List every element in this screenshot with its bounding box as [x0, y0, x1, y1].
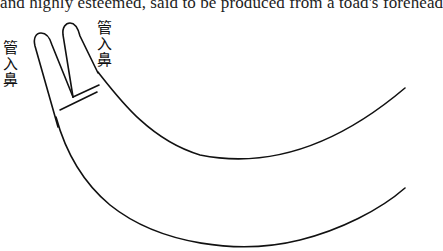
char: 管: [96, 20, 112, 36]
char: 鼻: [2, 72, 18, 88]
char: 入: [2, 56, 18, 72]
char: 管: [2, 40, 18, 56]
char: 鼻: [96, 52, 112, 68]
label-right: 管 入 鼻: [96, 20, 112, 68]
char: 入: [96, 36, 112, 52]
label-left: 管 入 鼻: [2, 40, 18, 88]
